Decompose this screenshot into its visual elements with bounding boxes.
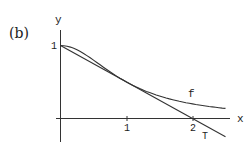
series-f-label: f — [188, 88, 195, 100]
series-T-line — [61, 46, 226, 137]
y-tick-label-1: 1 — [51, 41, 57, 52]
x-tick-label-1: 1 — [124, 123, 130, 134]
chart-canvas: (b) y x 1 2 1 f T — [0, 0, 251, 148]
y-axis-label: y — [55, 14, 62, 26]
x-axis-label: x — [237, 113, 244, 125]
series-f-line — [61, 46, 226, 109]
panel-label: (b) — [9, 25, 29, 41]
series-T-label: T — [202, 131, 208, 142]
x-tick-label-2: 2 — [190, 123, 196, 134]
